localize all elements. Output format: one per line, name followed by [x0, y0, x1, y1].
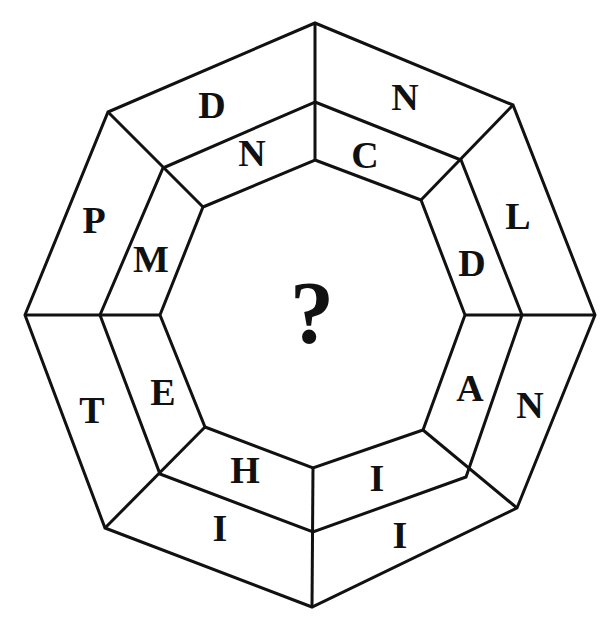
outer-letter: I: [393, 514, 408, 556]
inner-letter: A: [456, 367, 484, 409]
outer-letter: N: [391, 76, 418, 118]
outer-letter: P: [82, 199, 105, 241]
inner-letter: I: [370, 457, 385, 499]
inner-letter: M: [133, 238, 169, 280]
divider-bottom-right: [423, 430, 517, 508]
outer-letter: N: [516, 384, 543, 426]
divider-bottom-left: [105, 427, 205, 528]
outer-letter: L: [505, 195, 530, 237]
divider-bottom: [312, 468, 313, 607]
octagon-puzzle: N L N I I T P D C D A I H E M N ?: [0, 0, 612, 624]
inner-letter: N: [238, 132, 265, 174]
divider-top-right: [421, 105, 513, 200]
outer-letter: D: [198, 84, 225, 126]
outer-letter: T: [79, 389, 104, 431]
divider-top-left: [108, 112, 203, 207]
inner-letter: E: [150, 371, 175, 413]
inner-letter: D: [458, 242, 485, 284]
question-mark: ?: [290, 264, 334, 361]
outer-letter: I: [213, 507, 228, 549]
inner-letter: H: [230, 449, 260, 491]
inner-letter: C: [351, 134, 378, 176]
